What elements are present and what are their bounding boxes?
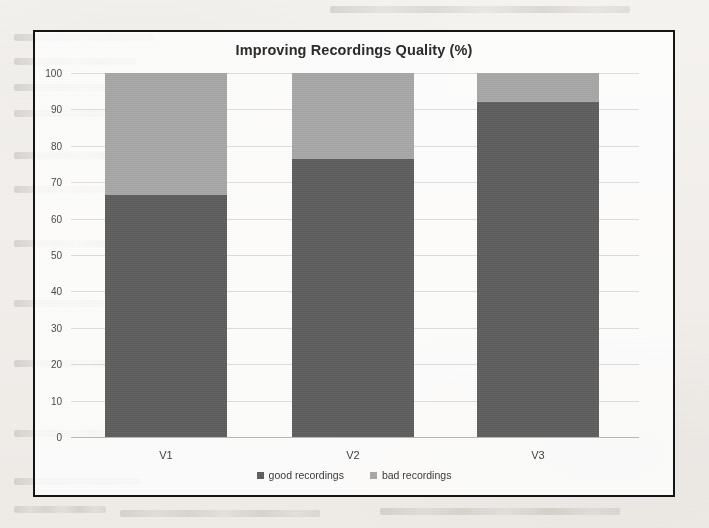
chart-legend: good recordings bad recordings bbox=[35, 469, 673, 481]
bar-segment-bad-recordings-v2[interactable] bbox=[292, 73, 414, 159]
chart-frame: Improving Recordings Quality (%) 100 90 … bbox=[33, 30, 675, 497]
bar-segment-bad-recordings-v3[interactable] bbox=[477, 73, 599, 102]
y-axis-tick-label: 90 bbox=[51, 104, 62, 115]
bar-segment-good-recordings-v3[interactable] bbox=[477, 102, 599, 437]
chart-title: Improving Recordings Quality (%) bbox=[35, 42, 673, 58]
ghost-text-line bbox=[380, 508, 620, 515]
bar-segment-bad-recordings-v1[interactable] bbox=[105, 73, 227, 195]
legend-item-bad-recordings[interactable]: bad recordings bbox=[370, 469, 451, 481]
legend-label-bad-recordings: bad recordings bbox=[382, 469, 451, 481]
y-axis-tick-label: 100 bbox=[45, 68, 62, 79]
bar-segment-good-recordings-v1[interactable] bbox=[105, 195, 227, 437]
y-axis-tick-label: 30 bbox=[51, 322, 62, 333]
x-axis-tick-label-v2: V2 bbox=[292, 449, 414, 461]
y-axis-tick-label: 10 bbox=[51, 395, 62, 406]
y-axis-tick-label: 70 bbox=[51, 177, 62, 188]
y-axis-tick-label: 0 bbox=[56, 432, 62, 443]
bar-segment-good-recordings-v2[interactable] bbox=[292, 159, 414, 437]
y-axis-tick-label: 40 bbox=[51, 286, 62, 297]
gridline-0-baseline: 0 bbox=[71, 437, 639, 438]
legend-label-good-recordings: good recordings bbox=[269, 469, 344, 481]
legend-swatch-good-recordings bbox=[257, 472, 264, 479]
y-axis-tick-label: 60 bbox=[51, 213, 62, 224]
x-axis-tick-label-v1: V1 bbox=[105, 449, 227, 461]
y-axis-tick-label: 20 bbox=[51, 359, 62, 370]
y-axis-tick-label: 80 bbox=[51, 140, 62, 151]
x-axis-tick-label-v3: V3 bbox=[477, 449, 599, 461]
ghost-text-line bbox=[14, 506, 106, 513]
legend-item-good-recordings[interactable]: good recordings bbox=[257, 469, 344, 481]
y-axis-tick-label: 50 bbox=[51, 250, 62, 261]
ghost-text-line bbox=[120, 510, 320, 517]
legend-swatch-bad-recordings bbox=[370, 472, 377, 479]
ghost-text-line bbox=[330, 6, 630, 13]
plot-area: 100 90 80 70 60 50 40 30 20 10 0 bbox=[71, 73, 639, 437]
